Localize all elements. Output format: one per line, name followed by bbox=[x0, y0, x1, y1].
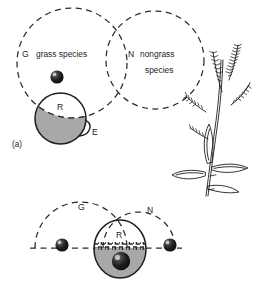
sphere-bottom-right bbox=[163, 238, 176, 251]
sphere-bottom-left bbox=[55, 238, 68, 251]
bottom-set-n-symbol: N bbox=[147, 205, 153, 215]
sphere-bottom-center bbox=[112, 252, 130, 270]
bottom-region-r-symbol: R bbox=[116, 230, 122, 240]
baseline-crenel-texture bbox=[94, 242, 148, 250]
bottom-set-g-symbol: G bbox=[78, 202, 85, 212]
region-e-symbol: E bbox=[92, 127, 98, 137]
figure-canvas: G grass species N nongrass species R E bbox=[0, 0, 257, 288]
region-r-symbol: R bbox=[57, 102, 63, 112]
panel-label: (a) bbox=[12, 140, 22, 149]
figure-root: G grass species N nongrass species R E bbox=[0, 0, 257, 288]
